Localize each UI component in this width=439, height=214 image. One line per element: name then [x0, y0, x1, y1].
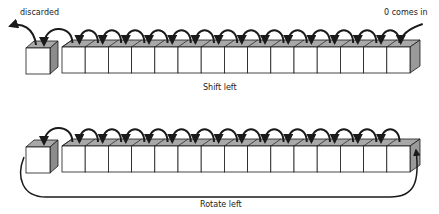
register-cell	[364, 146, 387, 172]
register-cell	[364, 47, 387, 73]
register-cell	[224, 47, 247, 73]
register-cell	[294, 47, 317, 73]
shift-left-title: Shift left	[203, 83, 237, 92]
register-cell	[387, 146, 410, 172]
register-cell	[271, 146, 294, 172]
register-cell	[108, 146, 131, 172]
register-cell	[155, 47, 178, 73]
rotate-left-title: Rotate left	[200, 200, 242, 209]
register-cell	[224, 146, 247, 172]
register-cell	[178, 47, 201, 73]
register-cell	[248, 146, 271, 172]
shift-rotate-diagram	[0, 0, 439, 214]
register-cell	[62, 47, 85, 73]
spill-box-front	[26, 147, 50, 173]
zero-comes-in-label: 0 comes in	[384, 8, 428, 17]
register-cell	[387, 47, 410, 73]
register-cell	[317, 47, 340, 73]
register-cell	[85, 146, 108, 172]
register-cell	[340, 146, 363, 172]
register-cell	[85, 47, 108, 73]
register-cell	[271, 47, 294, 73]
rotate-left-register	[21, 128, 420, 197]
register-cell	[62, 146, 85, 172]
register-cell	[340, 47, 363, 73]
spill-box-front	[26, 48, 50, 74]
register-cell	[201, 47, 224, 73]
register-cell	[132, 47, 155, 73]
discarded-arrow	[10, 25, 36, 45]
register-cell	[294, 146, 317, 172]
register-cell	[108, 47, 131, 73]
shift-left-register	[10, 24, 423, 74]
register-cell	[317, 146, 340, 172]
register-cell	[132, 146, 155, 172]
discarded-label: discarded	[20, 8, 59, 17]
register-cell	[201, 146, 224, 172]
register-cell	[178, 146, 201, 172]
register-cell	[155, 146, 178, 172]
register-cell	[248, 47, 271, 73]
